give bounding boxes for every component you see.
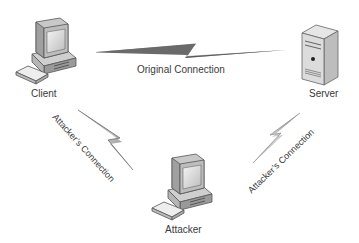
client-label: Client [31, 88, 57, 99]
original-connection-label: Original Connection [137, 64, 225, 75]
original-connection-bolt-icon [96, 44, 286, 59]
client-computer-icon [16, 18, 76, 84]
attacker-label: Attacker [165, 224, 202, 235]
server-label: Server [309, 88, 338, 99]
client-attacker-bolt-icon [78, 110, 133, 170]
attacker-computer-icon [152, 154, 212, 220]
server-tower-icon [302, 25, 338, 85]
